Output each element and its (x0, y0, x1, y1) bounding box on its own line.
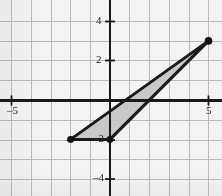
axes-layer (0, 0, 222, 196)
vertex-upper-right-dot (205, 37, 213, 45)
y-axis-tick-label-neg4: –4 (93, 172, 104, 183)
x-axis-tick-label-5: 5 (206, 105, 212, 116)
x-axis-tick-label-neg5: –5 (7, 105, 18, 116)
y-axis-tick-label-2: 2 (96, 54, 102, 65)
vertex-left-dot (67, 136, 74, 143)
y-axis-tick-label-4: 4 (96, 15, 102, 26)
y-axis-tick-label-neg2: –2 (93, 133, 104, 144)
coordinate-plane-figure: 4 2 –2 –4 –5 5 (0, 0, 222, 196)
vertex-origin-below-dot (107, 136, 114, 143)
